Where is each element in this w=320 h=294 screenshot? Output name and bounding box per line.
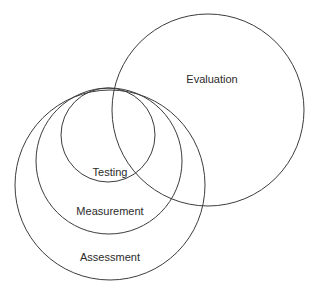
label-evaluation: Evaluation	[186, 73, 237, 85]
venn-diagram-canvas: Evaluation Assessment Measurement Testin…	[0, 0, 320, 294]
label-testing: Testing	[93, 166, 128, 178]
venn-diagram: Evaluation Assessment Measurement Testin…	[0, 0, 320, 294]
label-measurement: Measurement	[76, 205, 143, 217]
label-assessment: Assessment	[80, 251, 140, 263]
circle-evaluation	[112, 14, 304, 206]
